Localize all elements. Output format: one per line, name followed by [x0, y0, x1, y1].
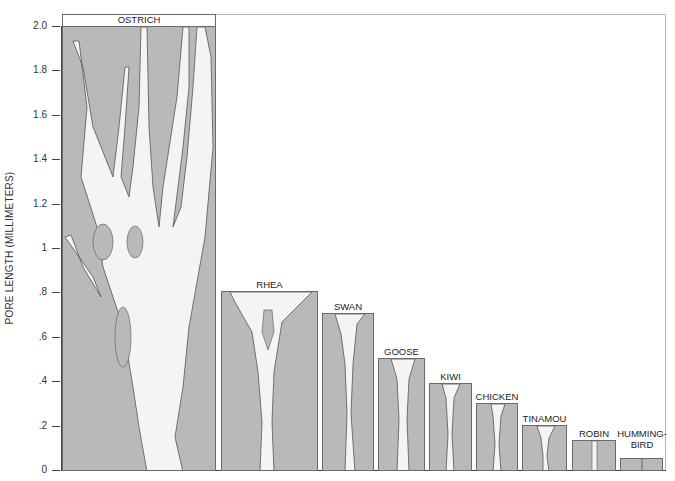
y-tick-label: .6 — [39, 332, 47, 342]
y-tick — [52, 470, 60, 471]
swan-pore-illustration — [323, 314, 374, 471]
rhea-pore-illustration — [222, 292, 318, 471]
y-tick — [52, 26, 60, 27]
y-tick — [52, 70, 60, 71]
bar-chicken — [476, 403, 518, 471]
y-tick-label: 0 — [41, 465, 47, 475]
chicken-pore-illustration — [477, 404, 518, 471]
bar-swan — [322, 313, 374, 471]
goose-pore-illustration — [379, 359, 425, 471]
bar-label-hummingbird-line2: BIRD — [631, 439, 654, 450]
bar-rhea — [221, 291, 318, 471]
y-tick-label: 1.2 — [33, 199, 47, 209]
bar-label-rhea: RHEA — [221, 279, 318, 290]
bar-tinamou — [522, 425, 567, 471]
robin-pore-illustration — [573, 441, 616, 471]
y-tick — [52, 337, 60, 338]
y-tick-label: 1.8 — [33, 65, 47, 75]
bar-kiwi — [429, 383, 472, 471]
bar-ostrich — [62, 26, 216, 471]
y-tick — [52, 159, 60, 160]
y-tick — [52, 204, 60, 205]
bar-label-robin: ROBIN — [572, 428, 616, 439]
bar-goose — [378, 358, 425, 471]
bar-label-ostrich: OSTRICH — [62, 14, 216, 25]
bar-robin — [572, 440, 616, 471]
tinamou-pore-illustration — [523, 426, 567, 471]
kiwi-pore-illustration — [430, 384, 472, 471]
bar-hummingbird — [620, 458, 663, 471]
y-tick-label: 1.6 — [33, 110, 47, 120]
y-tick-label: .8 — [39, 287, 47, 297]
y-tick-label: 1.4 — [33, 154, 47, 164]
y-axis-title: PORE LENGTH (MILLIMETERS) — [4, 172, 15, 325]
y-tick-label: .2 — [39, 421, 47, 431]
bar-label-goose: GOOSE — [378, 346, 425, 357]
bar-label-hummingbird-line1: HUMMING- — [617, 428, 667, 439]
y-tick — [52, 248, 60, 249]
bar-label-swan: SWAN — [322, 301, 374, 312]
y-tick-label: 2.0 — [33, 21, 47, 31]
y-tick — [52, 426, 60, 427]
y-tick-label: 1 — [41, 243, 47, 253]
bar-label-tinamou: TINAMOU — [520, 413, 569, 424]
y-tick-label: .4 — [39, 376, 47, 386]
bar-label-chicken: CHICKEN — [474, 391, 520, 402]
y-tick — [52, 115, 60, 116]
hummingbird-pore-illustration — [621, 459, 663, 471]
y-tick — [52, 292, 60, 293]
y-tick — [52, 381, 60, 382]
ostrich-pore-illustration — [63, 27, 216, 471]
bar-label-kiwi: KIWI — [429, 371, 472, 382]
bar-label-hummingbird: HUMMING- BIRD — [616, 428, 668, 450]
